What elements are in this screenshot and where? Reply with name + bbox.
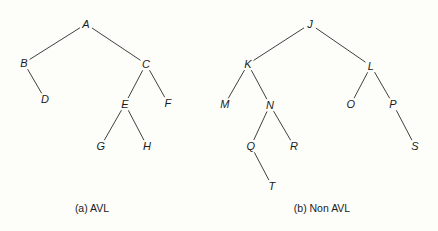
tree-node-h: H bbox=[143, 141, 151, 152]
tree-node-m: M bbox=[220, 99, 229, 110]
tree-edge-n-r bbox=[274, 111, 291, 139]
tree-node-t: T bbox=[269, 181, 276, 192]
tree-edge-p-s bbox=[396, 111, 411, 140]
tree-node-k: K bbox=[244, 59, 252, 70]
tree-node-o: O bbox=[347, 99, 356, 110]
tree-node-b: B bbox=[20, 58, 28, 69]
tree-edge-l-o bbox=[354, 73, 367, 98]
tree-edge-c-e bbox=[128, 71, 142, 98]
binary-tree-figure: ABCDEFGHJKLMNOPQRST (a) AVL(b) Non AVL bbox=[0, 0, 438, 231]
tree-node-s: S bbox=[411, 141, 419, 152]
tree-edge-l-p bbox=[375, 72, 390, 97]
tree-node-a: A bbox=[82, 19, 90, 30]
tree-edge-e-h bbox=[128, 111, 143, 140]
tree-node-d: D bbox=[41, 94, 49, 105]
tree-edge-a-b bbox=[30, 28, 80, 59]
tree-edge-e-g bbox=[104, 111, 121, 140]
tree-node-l: L bbox=[368, 61, 374, 72]
tree-node-p: P bbox=[389, 99, 397, 110]
tree-node-n: N bbox=[266, 100, 274, 111]
tree-node-f: F bbox=[165, 98, 172, 109]
tree-edge-b-d bbox=[28, 69, 42, 92]
tree-edge-a-c bbox=[92, 28, 140, 60]
figure-caption-avl-tree: (a) AVL bbox=[75, 202, 109, 214]
tree-edge-k-m bbox=[228, 71, 244, 98]
tree-node-g: G bbox=[97, 141, 106, 152]
tree-node-r: R bbox=[290, 141, 298, 152]
tree-node-q: Q bbox=[247, 141, 256, 152]
tree-edge-k-n bbox=[252, 71, 267, 99]
tree-edges-layer bbox=[0, 0, 438, 231]
tree-edge-j-k bbox=[254, 28, 304, 60]
tree-edge-q-t bbox=[254, 153, 268, 180]
tree-node-j: J bbox=[307, 19, 313, 30]
tree-edge-j-l bbox=[316, 28, 365, 62]
figure-caption-non-avl-tree: (b) Non AVL bbox=[294, 202, 350, 214]
tree-node-e: E bbox=[121, 99, 129, 110]
tree-edge-n-q bbox=[254, 112, 267, 140]
tree-node-c: C bbox=[142, 59, 150, 70]
tree-edge-c-f bbox=[150, 71, 165, 97]
